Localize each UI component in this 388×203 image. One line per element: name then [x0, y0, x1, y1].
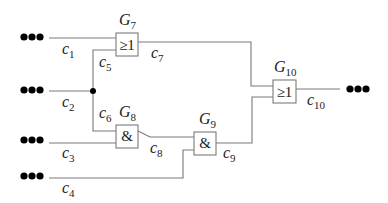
- logic-circuit-diagram: ≥1 G7 & G8 & G9 ≥1 G10 c1 c2 c3 c4 c5 c6…: [0, 0, 388, 203]
- signal-label-c5: c5: [99, 53, 112, 73]
- signal-label-c6: c6: [99, 104, 112, 124]
- signal-label-c9: c9: [223, 144, 236, 164]
- input-c1-ellipsis-icon: [20, 33, 43, 40]
- signal-label-c8: c8: [150, 139, 163, 159]
- gate-g7-label: G7: [119, 11, 137, 31]
- signal-label-c1: c1: [62, 40, 75, 60]
- gate-g10: ≥1 G10: [273, 58, 297, 103]
- input-c3-ellipsis-icon: [20, 136, 43, 143]
- gate-g9: & G9: [194, 110, 217, 155]
- gate-g9-symbol: &: [199, 135, 211, 151]
- gate-g7-symbol: ≥1: [119, 37, 135, 53]
- gate-g10-label: G10: [274, 58, 297, 78]
- input-c4-ellipsis-icon: [20, 172, 43, 179]
- signal-label-c7: c7: [151, 44, 164, 64]
- gate-g10-symbol: ≥1: [277, 84, 293, 100]
- signal-label-c3: c3: [62, 144, 75, 164]
- signal-label-c10: c10: [307, 91, 326, 111]
- wire-c8: [138, 131, 194, 137]
- input-c2-ellipsis-icon: [20, 86, 43, 93]
- fanout-junction-dot: [90, 88, 96, 94]
- gate-g8-symbol: &: [121, 128, 133, 144]
- wire-c7: [138, 42, 273, 86]
- output-c10-ellipsis-icon: [346, 85, 369, 92]
- gate-g8-label: G8: [119, 103, 137, 123]
- wire-c9: [216, 97, 273, 143]
- gate-g9-label: G9: [199, 110, 217, 130]
- gate-g7: ≥1 G7: [116, 11, 138, 56]
- gate-g8: & G8: [116, 103, 138, 148]
- signal-label-c4: c4: [62, 179, 75, 199]
- signal-label-c2: c2: [62, 93, 75, 113]
